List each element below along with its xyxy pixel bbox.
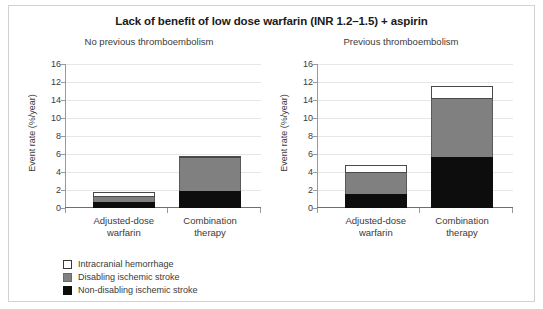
y-tick-mark	[61, 154, 65, 155]
y-tick-mark	[61, 82, 65, 83]
y-tick-mark	[313, 118, 317, 119]
y-axis-label: Event rate (%/year)	[277, 58, 291, 208]
stacked-bar	[179, 156, 241, 208]
legend-label: Non-disabling ischemic stroke	[78, 285, 198, 295]
stacked-bar	[93, 192, 155, 208]
y-tick-label: 10	[303, 113, 313, 123]
y-tick-mark	[61, 64, 65, 65]
y-tick-mark	[313, 64, 317, 65]
stacked-bar	[431, 86, 493, 208]
category-labels: Adjusted-dosewarfarinCombinationtherapy	[317, 215, 513, 245]
stacked-bar	[345, 165, 407, 208]
category-tick	[65, 208, 66, 213]
axis-area: 0246810141216	[317, 64, 513, 208]
y-tick-label: 10	[51, 113, 61, 123]
chart-panel-previous-thromboembolism: Previous thromboembolism Event rate (%/y…	[273, 36, 529, 241]
legend-label: Intracranial hemorrhage	[78, 259, 174, 269]
y-tick-mark	[313, 100, 317, 101]
bar-segment	[179, 191, 241, 208]
legend-item: Intracranial hemorrhage	[63, 258, 198, 270]
legend-item: Non-disabling ischemic stroke	[63, 284, 198, 296]
y-tick-mark	[313, 154, 317, 155]
y-tick-mark	[61, 190, 65, 191]
y-tick-labels: 0246810141216	[291, 64, 313, 208]
category-label: Adjusted-dosewarfarin	[74, 215, 174, 238]
y-tick-mark	[313, 82, 317, 83]
chart-panel-no-previous-thromboembolism: No previous thromboembolism Event rate (…	[21, 36, 277, 241]
plot-area: Event rate (%/year) 0246810141216 Adjust…	[21, 58, 277, 241]
y-tick-label: 14	[303, 95, 313, 105]
chart-legend: Intracranial hemorrhageDisabling ischemi…	[63, 258, 198, 297]
figure-title: Lack of benefit of low dose warfarin (IN…	[9, 15, 534, 27]
plot-area: Event rate (%/year) 0246810141216 Adjust…	[273, 58, 529, 241]
axis-area: 0246810141216	[65, 64, 261, 208]
legend-swatch	[63, 273, 72, 282]
category-labels: Adjusted-dosewarfarinCombinationtherapy	[65, 215, 261, 245]
category-label-line: warfarin	[326, 227, 426, 239]
y-tick-label: 12	[51, 77, 61, 87]
bars-group	[65, 64, 261, 208]
panel-subtitle: Previous thromboembolism	[273, 36, 529, 47]
category-tick	[317, 208, 318, 213]
legend-label: Disabling ischemic stroke	[78, 272, 180, 282]
category-label-line: Adjusted-dose	[326, 215, 426, 227]
category-label-line: Combination	[160, 215, 260, 227]
bar-segment	[345, 173, 407, 194]
bar-segment	[431, 157, 493, 208]
y-tick-label: 14	[51, 95, 61, 105]
legend-swatch	[63, 260, 72, 269]
category-label-line: Combination	[412, 215, 512, 227]
bar-segment	[179, 158, 241, 191]
category-label: Adjusted-dosewarfarin	[326, 215, 426, 238]
y-tick-mark	[313, 136, 317, 137]
y-tick-label: 16	[303, 59, 313, 69]
category-tick	[167, 208, 168, 213]
y-tick-mark	[313, 190, 317, 191]
category-axis	[317, 208, 513, 214]
bar-segment	[431, 86, 493, 100]
y-axis-label: Event rate (%/year)	[25, 58, 39, 208]
y-tick-label: 16	[51, 59, 61, 69]
y-axis-label-text: Event rate (%/year)	[27, 94, 37, 172]
y-tick-mark	[61, 172, 65, 173]
category-tick	[260, 208, 261, 213]
category-axis	[65, 208, 261, 214]
bar-segment	[431, 99, 493, 157]
y-tick-mark	[313, 172, 317, 173]
figure-frame: Lack of benefit of low dose warfarin (IN…	[8, 5, 535, 302]
category-tick	[419, 208, 420, 213]
category-label-line: therapy	[412, 227, 512, 239]
y-axis-label-text: Event rate (%/year)	[279, 94, 289, 172]
legend-item: Disabling ischemic stroke	[63, 271, 198, 283]
y-tick-labels: 0246810141216	[39, 64, 61, 208]
category-label: Combinationtherapy	[412, 215, 512, 238]
bars-group	[317, 64, 513, 208]
category-label-line: therapy	[160, 227, 260, 239]
y-tick-mark	[61, 100, 65, 101]
y-tick-mark	[61, 136, 65, 137]
bar-segment	[345, 165, 407, 173]
category-tick	[512, 208, 513, 213]
category-label-line: Adjusted-dose	[74, 215, 174, 227]
y-tick-label: 12	[303, 77, 313, 87]
legend-swatch	[63, 286, 72, 295]
category-label: Combinationtherapy	[160, 215, 260, 238]
y-tick-mark	[61, 118, 65, 119]
bar-segment	[345, 194, 407, 208]
category-label-line: warfarin	[74, 227, 174, 239]
panel-subtitle: No previous thromboembolism	[21, 36, 277, 47]
